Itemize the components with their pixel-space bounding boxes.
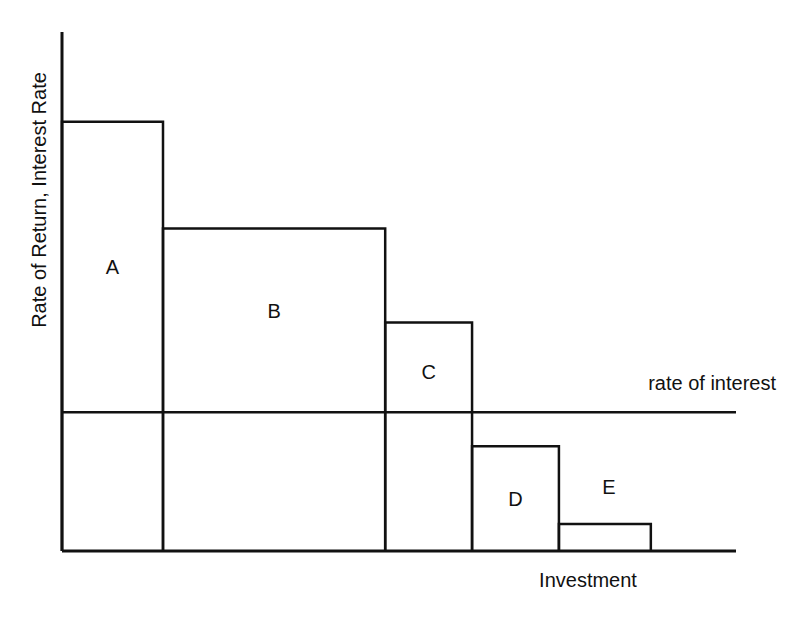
- rate-of-interest-label: rate of interest: [648, 372, 776, 394]
- investment-demand-chart: ABCDE rate of interest Investment Rate o…: [0, 0, 801, 619]
- bar-label-c: C: [421, 361, 435, 383]
- y-axis-label: Rate of Return, Interest Rate: [28, 72, 50, 328]
- bar-e: [559, 524, 651, 551]
- bar-label-b: B: [267, 300, 280, 322]
- bar-label-e: E: [602, 476, 615, 498]
- bar-label-a: A: [106, 256, 120, 278]
- x-axis-label: Investment: [539, 569, 637, 591]
- bar-c: [385, 322, 472, 551]
- bar-a: [62, 122, 163, 551]
- bar-label-d: D: [508, 488, 522, 510]
- bar-b: [163, 229, 385, 551]
